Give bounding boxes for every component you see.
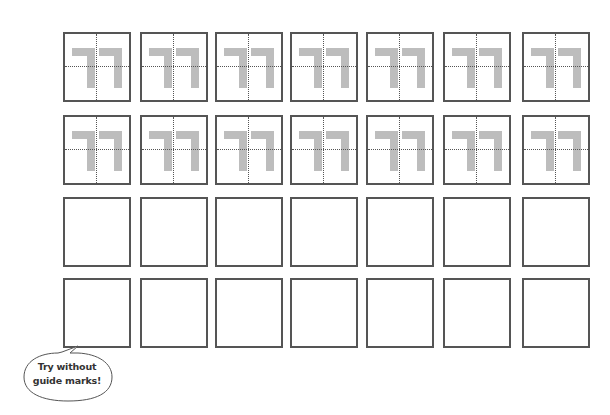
blank-practice-box xyxy=(443,197,511,267)
blank-practice-box xyxy=(140,278,208,348)
horizontal-guide-line xyxy=(217,66,281,67)
blank-practice-box xyxy=(215,197,283,267)
guided-practice-box xyxy=(63,115,131,185)
horizontal-guide-line xyxy=(524,149,588,150)
ssang-giyeok-glyph-icon xyxy=(217,117,281,183)
guided-practice-box xyxy=(215,115,283,185)
vertical-guide-line xyxy=(96,117,97,183)
vertical-guide-line xyxy=(323,117,324,183)
horizontal-guide-line xyxy=(368,149,432,150)
blank-practice-box xyxy=(522,278,590,348)
vertical-guide-line xyxy=(476,34,477,100)
guided-practice-box xyxy=(215,32,283,102)
vertical-guide-line xyxy=(248,34,249,100)
guided-practice-box xyxy=(366,32,434,102)
horizontal-guide-line xyxy=(524,66,588,67)
blank-practice-box xyxy=(443,278,511,348)
blank-practice-box xyxy=(366,197,434,267)
guided-practice-box xyxy=(443,115,511,185)
vertical-guide-line xyxy=(399,117,400,183)
blank-practice-box xyxy=(215,278,283,348)
vertical-guide-line xyxy=(248,117,249,183)
horizontal-guide-line xyxy=(142,66,206,67)
guided-practice-box xyxy=(522,32,590,102)
blank-practice-box xyxy=(63,197,131,267)
horizontal-guide-line xyxy=(65,149,129,150)
horizontal-guide-line xyxy=(65,66,129,67)
guided-practice-box xyxy=(290,32,358,102)
vertical-guide-line xyxy=(555,34,556,100)
guided-practice-box xyxy=(140,32,208,102)
ssang-giyeok-glyph-icon xyxy=(142,34,206,100)
guided-practice-box xyxy=(140,115,208,185)
hint-line-2: guide marks! xyxy=(24,374,110,388)
blank-practice-box xyxy=(522,197,590,267)
ssang-giyeok-glyph-icon xyxy=(217,34,281,100)
ssang-giyeok-glyph-icon xyxy=(368,117,432,183)
guided-practice-box xyxy=(63,32,131,102)
guided-practice-box xyxy=(366,115,434,185)
horizontal-guide-line xyxy=(445,66,509,67)
horizontal-guide-line xyxy=(217,149,281,150)
hint-text: Try without guide marks! xyxy=(24,360,110,388)
blank-practice-box xyxy=(290,278,358,348)
ssang-giyeok-glyph-icon xyxy=(142,117,206,183)
ssang-giyeok-glyph-icon xyxy=(65,34,129,100)
vertical-guide-line xyxy=(323,34,324,100)
horizontal-guide-line xyxy=(292,66,356,67)
vertical-guide-line xyxy=(96,34,97,100)
ssang-giyeok-glyph-icon xyxy=(524,34,588,100)
ssang-giyeok-glyph-icon xyxy=(368,34,432,100)
ssang-giyeok-glyph-icon xyxy=(292,34,356,100)
ssang-giyeok-glyph-icon xyxy=(65,117,129,183)
hint-line-1: Try without xyxy=(24,360,110,374)
vertical-guide-line xyxy=(476,117,477,183)
guided-practice-box xyxy=(522,115,590,185)
horizontal-guide-line xyxy=(368,66,432,67)
horizontal-guide-line xyxy=(292,149,356,150)
vertical-guide-line xyxy=(173,34,174,100)
guided-practice-box xyxy=(290,115,358,185)
ssang-giyeok-glyph-icon xyxy=(445,34,509,100)
guided-practice-box xyxy=(443,32,511,102)
ssang-giyeok-glyph-icon xyxy=(292,117,356,183)
ssang-giyeok-glyph-icon xyxy=(524,117,588,183)
vertical-guide-line xyxy=(399,34,400,100)
ssang-giyeok-glyph-icon xyxy=(445,117,509,183)
blank-practice-box xyxy=(366,278,434,348)
blank-practice-box xyxy=(140,197,208,267)
horizontal-guide-line xyxy=(142,149,206,150)
vertical-guide-line xyxy=(555,117,556,183)
horizontal-guide-line xyxy=(445,149,509,150)
blank-practice-box xyxy=(290,197,358,267)
blank-practice-box xyxy=(63,278,131,348)
vertical-guide-line xyxy=(173,117,174,183)
